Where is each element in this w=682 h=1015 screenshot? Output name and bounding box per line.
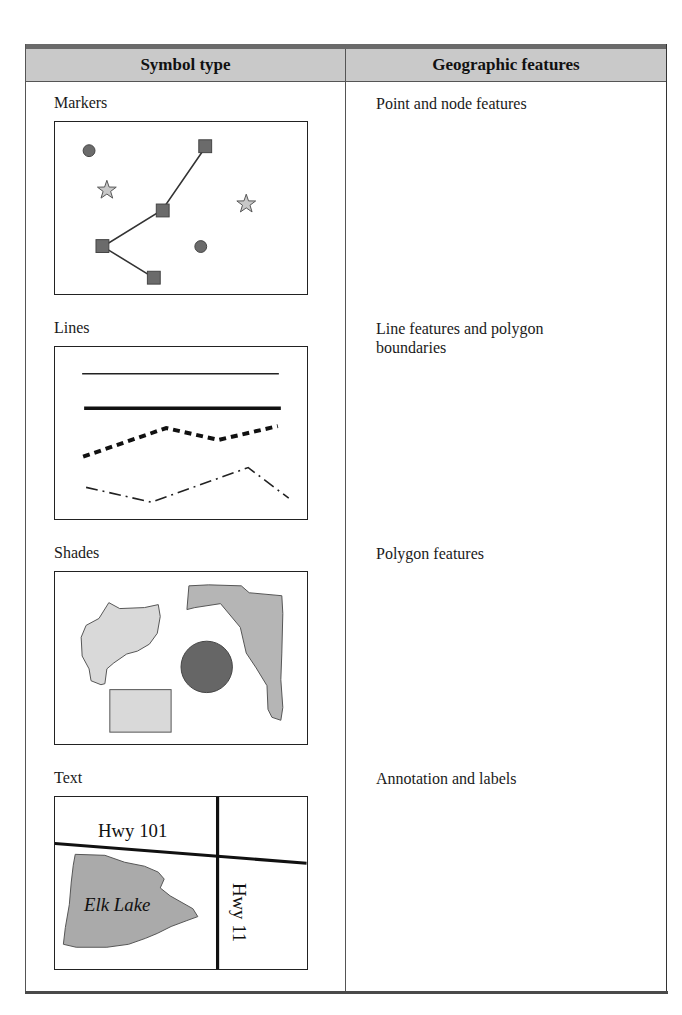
light-rectangle-shade (110, 690, 171, 733)
symbol-type-label: Text (54, 769, 82, 787)
markers-map (54, 121, 308, 295)
markers-illustration (55, 122, 307, 294)
header-symbol-type: Symbol type (26, 49, 346, 81)
circle-marker-icon (195, 241, 207, 253)
geographic-feature-label: Annotation and labels (376, 769, 616, 788)
table-header: Symbol type Geographic features (26, 49, 666, 82)
column-divider (345, 81, 346, 994)
text-illustration: Hwy 101 Elk Lake Hwy 11 (55, 797, 307, 969)
symbol-type-label: Lines (54, 319, 90, 337)
hwy11-label: Hwy 11 (229, 883, 250, 942)
dash-dot-line (86, 468, 289, 503)
square-marker-icon (147, 271, 160, 284)
star-marker-icon (97, 180, 116, 198)
hwy101-label: Hwy 101 (98, 820, 167, 841)
symbol-type-label: Shades (54, 544, 99, 562)
shades-map (54, 571, 308, 745)
table-bottom-rule (25, 991, 668, 994)
square-marker-icon (156, 204, 169, 217)
symbol-table: Symbol type Geographic features Markers … (25, 44, 667, 994)
geographic-feature-label: Polygon features (376, 544, 616, 563)
square-marker-icon (199, 140, 212, 153)
shades-illustration (55, 572, 307, 744)
dashed-line (83, 426, 278, 457)
dark-circle-shade (181, 641, 232, 692)
symbol-type-label: Markers (54, 94, 107, 112)
geographic-feature-label: Line features and polygon boundaries (376, 319, 616, 357)
light-polygon (81, 603, 160, 685)
star-marker-icon (237, 194, 256, 212)
lines-map (54, 346, 308, 520)
square-marker-icon (96, 240, 109, 253)
text-map: Hwy 101 Elk Lake Hwy 11 (54, 796, 308, 970)
lines-illustration (55, 347, 307, 519)
elk-lake-label: Elk Lake (83, 894, 150, 915)
circle-marker-icon (83, 145, 95, 157)
header-geographic-features: Geographic features (346, 49, 666, 81)
geographic-feature-label: Point and node features (376, 94, 616, 113)
